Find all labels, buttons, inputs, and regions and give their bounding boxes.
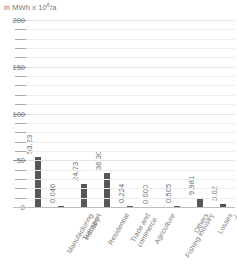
gridline-minor — [26, 48, 235, 49]
category-label-line: -/- — [232, 212, 237, 222]
y-axis-tick-label: 200 — [12, 16, 25, 25]
gridline-major — [26, 67, 235, 68]
y-axis-tick — [15, 104, 26, 105]
gridline-minor — [26, 76, 235, 77]
y-axis-tick — [15, 170, 26, 171]
y-axis-tick — [15, 151, 26, 152]
gridline-minor — [26, 188, 235, 189]
bar[interactable] — [35, 157, 41, 207]
gridline-minor — [26, 57, 235, 58]
y-axis-tick — [15, 29, 26, 30]
axis-unit-label: in MWh x 106/a — [4, 3, 56, 12]
bar[interactable] — [197, 198, 203, 207]
bar-value-label: 0.224 — [117, 184, 126, 203]
y-axis-tick — [15, 95, 26, 96]
x-axis-category-label: -/- — [232, 212, 237, 222]
y-axis-tick — [15, 142, 26, 143]
y-axis-tick-label: 100 — [12, 109, 25, 118]
gridline-minor — [26, 123, 235, 124]
gridline-minor — [26, 29, 235, 30]
gridline-minor — [26, 142, 235, 143]
gridline-minor — [26, 104, 235, 105]
y-axis-tick — [15, 48, 26, 49]
gridline-minor — [26, 151, 235, 152]
bar-chart: in MWh x 106/a 53.230.04624.7336.300.224… — [0, 0, 237, 275]
y-axis-tick — [15, 132, 26, 133]
gridline-minor — [26, 39, 235, 40]
x-axis-category-label: Trade andcommerce — [129, 212, 159, 248]
y-axis-tick — [15, 188, 26, 189]
x-axis-category-label: Agriculture — [153, 212, 177, 245]
gridline-major — [26, 160, 235, 161]
plot-area: 53.230.04624.7336.300.2240.0000.5059.981… — [26, 20, 235, 207]
axis-unit-prefix: in MWh x 10 — [4, 3, 47, 12]
x-axis-category-label: Residential — [107, 212, 131, 246]
y-axis-tick-label: 150 — [12, 62, 25, 71]
category-label-line: Residential — [107, 212, 131, 246]
bar-value-label: 0.505 — [164, 184, 173, 203]
y-axis-tick — [15, 123, 26, 124]
gridline-major — [26, 20, 235, 21]
y-axis-tick — [15, 179, 26, 180]
gridline-minor — [26, 198, 235, 199]
gridline-major — [26, 114, 235, 115]
y-axis-tick — [15, 57, 26, 58]
gridline-minor — [26, 85, 235, 86]
y-axis-tick — [15, 76, 26, 77]
gridline-minor — [26, 179, 235, 180]
y-axis-tick — [15, 85, 26, 86]
y-axis-tick — [15, 39, 26, 40]
gridline-minor — [26, 132, 235, 133]
gridline-minor — [26, 95, 235, 96]
y-axis-tick — [15, 198, 26, 199]
gridline-minor — [26, 170, 235, 171]
x-axis-category-labels: ManufacturingindustryTransportResidentia… — [26, 208, 235, 275]
bar-value-label: 0.046 — [48, 184, 57, 203]
y-axis-tick-label: 50 — [17, 156, 25, 165]
axis-unit-suffix: /a — [50, 3, 56, 12]
category-label-line: Agriculture — [153, 212, 177, 245]
